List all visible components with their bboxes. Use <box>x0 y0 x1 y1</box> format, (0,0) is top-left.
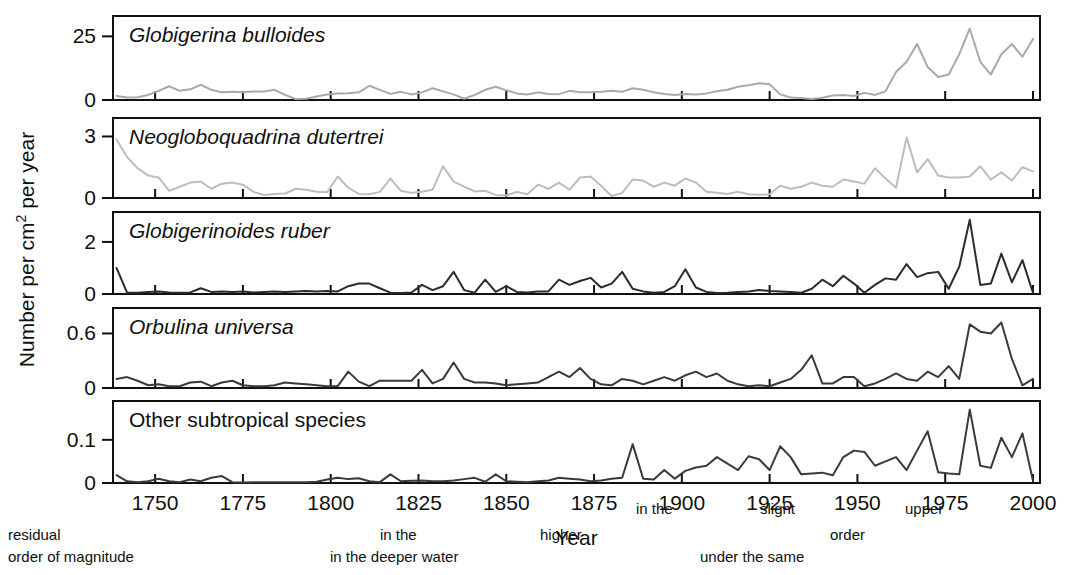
panel-4: 00.6Orbulina universa <box>67 308 1040 399</box>
x-tick-label: 1775 <box>220 491 267 514</box>
panel-3: 02Globigerinoides ruber <box>84 212 1040 305</box>
x-tick-label: 1925 <box>746 491 793 514</box>
x-tick-label: 2000 <box>1010 491 1057 514</box>
x-tick-label: 1900 <box>658 491 705 514</box>
panel-label: Neogloboquadrina dutertrei <box>129 125 385 148</box>
panel-label: Globigerinoides ruber <box>129 219 331 242</box>
y-tick-label: 25 <box>73 24 96 47</box>
panel-1: 025Globigerina bulloides <box>73 16 1040 111</box>
y-axis-title-superscript: 2 <box>13 214 29 222</box>
background-bleed-text: in the <box>380 526 417 543</box>
y-tick-label: 0 <box>84 186 96 209</box>
x-axis-title: Year <box>555 526 597 549</box>
y-tick-label: 0 <box>84 471 96 494</box>
x-tick-label: 1875 <box>571 491 618 514</box>
y-tick-label: 0.1 <box>67 428 96 451</box>
background-bleed-text: in the deeper water <box>330 548 458 565</box>
y-axis-title: Number per cm2 per year <box>13 132 38 367</box>
y-axis-title-suffix: per year <box>15 132 38 215</box>
figure-container: in theslightupperresidualin thehigherord… <box>0 0 1080 575</box>
background-bleed-text: order of magnitude <box>8 548 134 565</box>
panel-label: Orbulina universa <box>129 315 294 338</box>
x-tick-label: 1825 <box>395 491 442 514</box>
y-axis-title-prefix: Number per cm <box>15 222 38 367</box>
x-tick-label: 1950 <box>834 491 881 514</box>
x-tick-label: 1850 <box>483 491 530 514</box>
y-tick-label: 0 <box>84 376 96 399</box>
x-tick-label: 1750 <box>132 491 179 514</box>
background-bleed-text: under the same <box>700 548 804 565</box>
y-tick-label: 3 <box>84 124 96 147</box>
panel-2: 03Neogloboquadrina dutertrei <box>84 118 1040 209</box>
panel-label: Other subtropical species <box>129 408 366 431</box>
x-tick-label: 1800 <box>307 491 354 514</box>
chart-svg: in theslightupperresidualin thehigherord… <box>0 0 1080 575</box>
panel-label: Globigerina bulloides <box>129 23 326 46</box>
y-axis-title-group: Number per cm2 per year <box>13 132 38 367</box>
y-tick-label: 0 <box>84 88 96 111</box>
panel-5: 00.1Other subtropical species <box>67 401 1040 494</box>
background-bleed-text: order <box>830 526 865 543</box>
y-tick-label: 2 <box>84 230 96 253</box>
background-bleed-text: residual <box>8 526 61 543</box>
y-tick-label: 0 <box>84 282 96 305</box>
y-tick-label: 0.6 <box>67 321 96 344</box>
x-tick-label: 1975 <box>922 491 969 514</box>
